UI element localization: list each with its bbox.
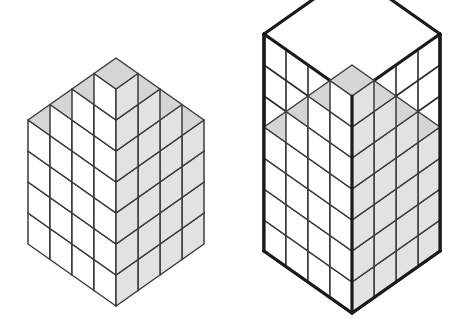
box-edge-top <box>264 0 352 34</box>
boxed-stack-svg <box>0 0 454 328</box>
box-edge-top <box>352 0 440 34</box>
diagram-canvas <box>0 0 454 328</box>
boxed-stack-figure <box>0 0 454 328</box>
